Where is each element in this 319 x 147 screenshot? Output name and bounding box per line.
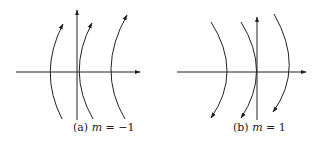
trajectory-b-right xyxy=(273,14,289,112)
caption-a: (a) m = −1 xyxy=(73,121,135,134)
caption-a-var: m xyxy=(92,121,102,134)
trajectory-b-left xyxy=(211,22,227,118)
trajectory-b-middle xyxy=(241,22,257,118)
panel-a xyxy=(16,10,140,120)
caption-b-prefix: (b) xyxy=(233,121,252,134)
panel-b xyxy=(177,14,306,120)
caption-b-value: 1 xyxy=(279,121,286,134)
caption-b-equals: = xyxy=(263,121,279,134)
caption-b-var: m xyxy=(252,121,262,134)
caption-b: (b) m = 1 xyxy=(233,121,286,134)
caption-a-equals: = xyxy=(102,121,118,134)
trajectory-a-middle xyxy=(79,23,93,119)
trajectory-a-right xyxy=(111,15,127,119)
caption-a-value: −1 xyxy=(118,121,134,134)
caption-a-prefix: (a) xyxy=(73,121,92,134)
